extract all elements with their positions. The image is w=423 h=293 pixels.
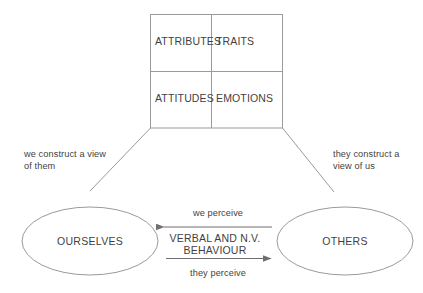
diagram-canvas: ATTRIBUTES TRAITS ATTITUDES EMOTIONS OUR… bbox=[0, 0, 423, 293]
connector-grid-to-others bbox=[283, 128, 335, 192]
grid-cell-traits: TRAITS bbox=[216, 35, 254, 48]
attribute-grid-outline bbox=[151, 15, 283, 129]
grid-cell-emotions: EMOTIONS bbox=[216, 92, 273, 105]
arrow-label-we-perceive: we perceive bbox=[168, 208, 268, 220]
grid-cell-attitudes: ATTITUDES bbox=[155, 92, 214, 105]
node-ourselves-label: OURSELVES bbox=[40, 235, 140, 248]
note-left-line2: of them bbox=[24, 161, 55, 173]
node-others-label: OTHERS bbox=[295, 235, 395, 248]
note-right-line1: they construct a bbox=[333, 149, 399, 161]
note-right-line2: view of us bbox=[333, 161, 375, 173]
note-left-line1: we construct a view bbox=[24, 149, 106, 161]
center-label-line2: BEHAVIOUR bbox=[155, 244, 275, 257]
arrow-label-they-perceive: they perceive bbox=[168, 268, 268, 280]
grid-cell-attributes: ATTRIBUTES bbox=[155, 35, 221, 48]
